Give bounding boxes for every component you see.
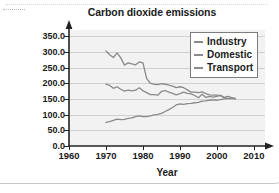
legend-line-swatch [194, 67, 203, 69]
legend-item-industry[interactable]: Industry [194, 35, 253, 48]
legend[interactable]: IndustryDomesticTransport [190, 32, 258, 78]
legend-line-swatch [194, 54, 203, 56]
legend-item-domestic[interactable]: Domestic [194, 48, 253, 61]
axis-lines [0, 0, 279, 193]
chart-page: Carbon dioxide emissions Million tonnes … [0, 0, 279, 193]
legend-label: Industry [207, 36, 246, 48]
x-axis-title: Year [69, 167, 265, 178]
plot-wrapper: 0.050.0100.0150.0200.0250.0300.0350.0 19… [0, 0, 279, 193]
legend-item-transport[interactable]: Transport [194, 61, 253, 74]
legend-line-swatch [194, 41, 203, 43]
legend-label: Domestic [207, 49, 252, 61]
legend-label: Transport [207, 62, 253, 74]
